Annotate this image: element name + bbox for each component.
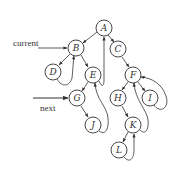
edge-h-k	[122, 106, 128, 117]
node-e-label: E	[89, 70, 97, 80]
edge-g-j	[81, 106, 88, 117]
node-c: C	[110, 41, 126, 57]
edge-e-g	[82, 82, 88, 91]
edge-f-h	[122, 82, 128, 90]
node-b: B	[68, 40, 84, 56]
node-c-label: C	[115, 44, 122, 54]
edge-k-l	[123, 132, 128, 142]
node-h-label: H	[113, 93, 122, 103]
node-b-label: B	[72, 43, 80, 53]
threaded-tree-diagram: current next A B C D E F G H I J K L	[0, 0, 177, 175]
node-a: A	[96, 20, 112, 36]
node-e: E	[85, 67, 101, 83]
edge-a-b	[83, 32, 97, 43]
node-l-label: L	[115, 145, 122, 155]
next-pointer-label: next	[40, 103, 56, 113]
node-d-label: D	[48, 67, 56, 77]
node-k-label: K	[129, 120, 138, 130]
node-f: F	[125, 67, 141, 83]
node-g-label: G	[73, 93, 80, 103]
edge-c-f	[122, 57, 129, 67]
node-g: G	[69, 90, 85, 106]
nodes: A B C D E F G H I J K L	[45, 20, 158, 158]
edge-f-i	[138, 82, 145, 91]
edge-b-d	[59, 54, 70, 65]
edge-b-e	[81, 55, 88, 67]
current-pointer-label: current	[13, 38, 39, 48]
edge-a-c	[108, 35, 114, 42]
node-l: L	[111, 142, 127, 158]
node-j: J	[85, 117, 101, 133]
node-h: H	[110, 90, 126, 106]
node-a-label: A	[100, 23, 108, 33]
node-f-label: F	[129, 70, 137, 80]
node-d: D	[45, 64, 61, 80]
diagram-canvas: current next A B C D E F G H I J K L	[0, 0, 177, 175]
node-i-label: I	[147, 93, 152, 103]
node-i: I	[142, 90, 158, 106]
node-k: K	[125, 117, 141, 133]
